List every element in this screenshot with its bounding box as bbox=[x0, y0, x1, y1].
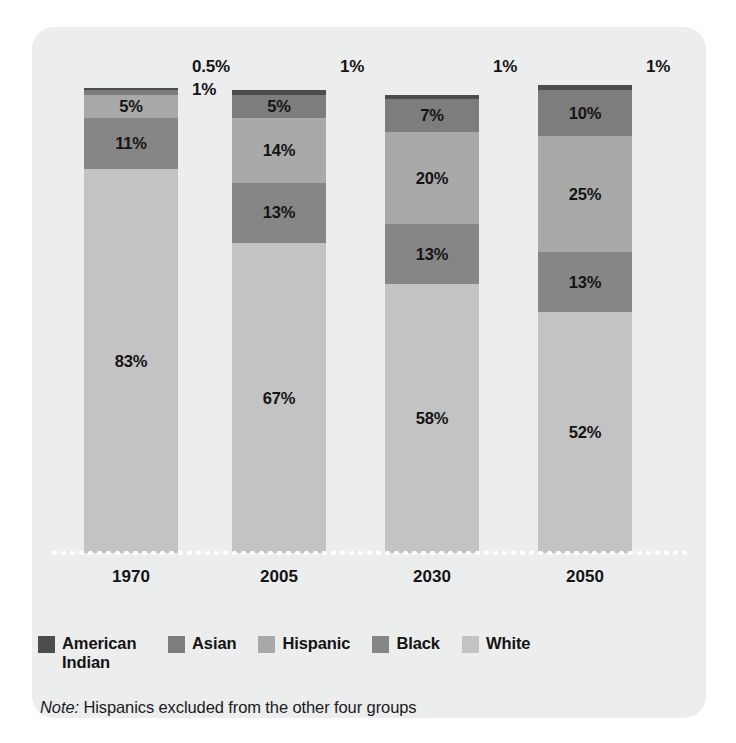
legend-item-label: Asian bbox=[192, 634, 236, 652]
bar-segment-2030-white: 58% bbox=[385, 284, 479, 553]
callout-label-2030-1: 1% bbox=[493, 57, 517, 77]
segment-value-label: 10% bbox=[569, 105, 601, 122]
bar-segment-2005-hispanic: 14% bbox=[232, 118, 326, 183]
legend-item-label: White bbox=[486, 634, 530, 652]
segment-value-label: 83% bbox=[115, 353, 147, 370]
segment-value-label: 67% bbox=[263, 390, 295, 407]
axis-baseline-dotted bbox=[50, 551, 690, 555]
legend-swatch-icon bbox=[258, 636, 275, 653]
segment-value-label: 5% bbox=[119, 98, 142, 115]
bar-2050: 10%25%13%52% bbox=[538, 85, 632, 553]
legend-item-asian: Asian bbox=[168, 634, 236, 653]
callout-label-2050-1: 1% bbox=[646, 57, 670, 77]
bar-segment-2050-white: 52% bbox=[538, 312, 632, 553]
x-tick-2030: 2030 bbox=[385, 567, 479, 587]
bar-segment-2030-hispanic: 20% bbox=[385, 132, 479, 225]
legend-item-label: Hispanic bbox=[282, 634, 350, 652]
callout-label-1970-2: 1% bbox=[192, 80, 216, 100]
segment-value-label: 13% bbox=[416, 246, 448, 263]
x-tick-2050: 2050 bbox=[538, 567, 632, 587]
legend-item-american-indian: American Indian bbox=[38, 634, 146, 671]
bar-segment-2050-asian: 10% bbox=[538, 90, 632, 136]
x-tick-2005: 2005 bbox=[232, 567, 326, 587]
chart-figure: 5%11%83%0.5%1%5%14%13%67%1%7%20%13%58%1%… bbox=[0, 0, 736, 743]
segment-value-label: 58% bbox=[416, 410, 448, 427]
plot-area: 5%11%83%0.5%1%5%14%13%67%1%7%20%13%58%1%… bbox=[32, 27, 706, 718]
segment-value-label: 13% bbox=[263, 204, 295, 221]
bar-segment-1970-hispanic: 5% bbox=[84, 95, 178, 118]
legend-swatch-icon bbox=[372, 636, 389, 653]
legend-item-label: Black bbox=[396, 634, 440, 652]
bar-segment-2050-black: 13% bbox=[538, 252, 632, 312]
bar-segment-2005-black: 13% bbox=[232, 183, 326, 243]
segment-value-label: 52% bbox=[569, 424, 601, 441]
chart-legend: American IndianAsianHispanicBlackWhite bbox=[38, 634, 658, 671]
legend-item-black: Black bbox=[372, 634, 440, 653]
bar-2030: 7%20%13%58% bbox=[385, 95, 479, 553]
segment-value-label: 13% bbox=[569, 274, 601, 291]
x-tick-1970: 1970 bbox=[84, 567, 178, 587]
bar-2005: 5%14%13%67% bbox=[232, 90, 326, 553]
bar-1970: 5%11%83% bbox=[84, 88, 178, 553]
bar-segment-1970-black: 11% bbox=[84, 118, 178, 169]
segment-value-label: 14% bbox=[263, 142, 295, 159]
legend-item-white: White bbox=[462, 634, 530, 653]
segment-value-label: 20% bbox=[416, 170, 448, 187]
bar-segment-2030-black: 13% bbox=[385, 224, 479, 284]
legend-swatch-icon bbox=[462, 636, 479, 653]
bar-segment-2050-hispanic: 25% bbox=[538, 136, 632, 252]
bar-segment-1970-white: 83% bbox=[84, 169, 178, 553]
chart-note: Note: Hispanics excluded from the other … bbox=[40, 698, 416, 717]
note-text: Hispanics excluded from the other four g… bbox=[83, 698, 416, 716]
bar-segment-2005-asian: 5% bbox=[232, 95, 326, 118]
legend-item-label: American Indian bbox=[62, 634, 146, 671]
note-prefix: Note: bbox=[40, 698, 79, 716]
segment-value-label: 5% bbox=[267, 98, 290, 115]
legend-swatch-icon bbox=[38, 636, 55, 653]
legend-item-hispanic: Hispanic bbox=[258, 634, 350, 653]
bar-segment-2005-white: 67% bbox=[232, 243, 326, 553]
segment-value-label: 11% bbox=[115, 135, 147, 152]
segment-value-label: 25% bbox=[569, 186, 601, 203]
callout-label-1970-1: 0.5% bbox=[192, 57, 230, 77]
segment-value-label: 7% bbox=[420, 107, 443, 124]
legend-swatch-icon bbox=[168, 636, 185, 653]
bar-segment-2030-asian: 7% bbox=[385, 99, 479, 131]
callout-label-2005-1: 1% bbox=[340, 57, 364, 77]
